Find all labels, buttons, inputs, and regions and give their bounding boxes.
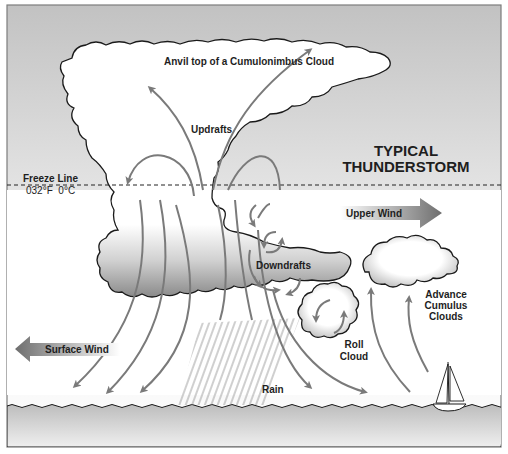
anvil-label: Anvil top of a Cumulonimbus Cloud (164, 56, 334, 67)
downdrafts-label: Downdrafts (256, 260, 311, 271)
title-line-2: THUNDERSTORM (342, 158, 469, 175)
title-line-1: TYPICAL (374, 142, 438, 159)
freeze-line-label: Freeze Line (23, 173, 78, 184)
freeze-temp-label: 032°F 0°C (26, 185, 75, 196)
advance-label-1: Advance (425, 289, 467, 300)
advance-label-3: Clouds (429, 311, 463, 322)
roll-cloud-label-2: Cloud (340, 351, 368, 362)
thunderstorm-diagram: Anvil top of a Cumulonimbus Cloud Updraf… (0, 0, 508, 454)
surface-wind-label: Surface Wind (45, 344, 109, 355)
rain-label: Rain (262, 384, 284, 395)
roll-cloud-label-1: Roll (345, 339, 364, 350)
water-surface (7, 405, 507, 448)
upper-wind-label: Upper Wind (346, 208, 402, 219)
advance-label-2: Cumulus (425, 300, 468, 311)
updrafts-label: Updrafts (191, 124, 233, 135)
